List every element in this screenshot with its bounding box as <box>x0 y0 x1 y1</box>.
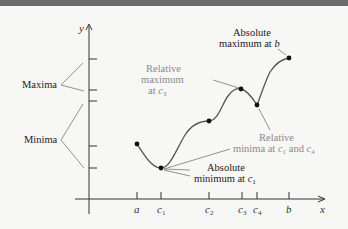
minima-bracket <box>61 104 84 168</box>
relative-min-line1: Relative <box>259 132 294 143</box>
leader-lines <box>164 49 286 176</box>
absolute-max-line1: Absolute <box>233 27 271 38</box>
axes <box>75 24 325 214</box>
tick-label-c3: c3 <box>238 203 247 217</box>
tick-label-a: a <box>134 203 140 215</box>
point-c4 <box>255 103 260 108</box>
point-c2 <box>207 119 212 124</box>
relative-max-line3: at c3 <box>148 85 167 98</box>
x-axis-label: x <box>319 203 325 215</box>
point-c1 <box>159 166 164 171</box>
point-b <box>287 56 292 61</box>
tick-label-c2: c2 <box>205 203 214 217</box>
extrema-diagram: y x a c1 c2 c3 c4 b Maxima Minima Absolu… <box>0 0 348 229</box>
relative-max-line1: Relative <box>146 63 181 74</box>
relative-min-line2: minima at c1 and c4 <box>233 143 315 156</box>
absolute-min-line2: minimum at c1 <box>194 173 256 186</box>
relative-max-line2: maximum <box>141 74 184 85</box>
y-axis-label: y <box>78 22 84 34</box>
absolute-max-line2: maximum at b <box>219 38 280 49</box>
maxima-bracket <box>61 63 84 91</box>
tick-label-c4: c4 <box>253 203 262 217</box>
absolute-min-line1: Absolute <box>207 162 245 173</box>
maxima-label: Maxima <box>22 79 57 90</box>
point-a <box>135 142 140 147</box>
minima-label: Minima <box>24 134 58 145</box>
point-c3 <box>239 87 244 92</box>
tick-label-b: b <box>286 203 292 215</box>
tick-label-c1: c1 <box>157 203 166 217</box>
